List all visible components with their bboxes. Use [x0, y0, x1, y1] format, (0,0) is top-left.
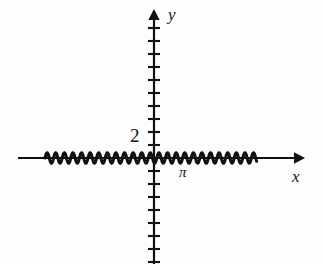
x-annotation-pi: π — [179, 165, 187, 180]
plot-canvas — [0, 0, 323, 264]
y-tick-label-2: 2 — [130, 126, 140, 145]
graph-figure: y x 2 π — [0, 0, 323, 264]
x-axis-label: x — [292, 168, 300, 185]
x-axis-arrowhead — [294, 152, 305, 164]
y-axis — [148, 9, 159, 264]
y-axis-arrowhead — [148, 9, 159, 20]
y-axis-label: y — [168, 6, 176, 23]
